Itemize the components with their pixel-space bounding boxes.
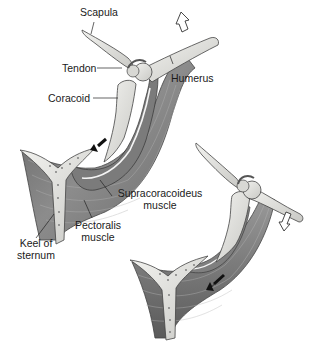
flight-muscle-diagram: Scapula Tendon Coracoid Humerus Supracor… xyxy=(0,0,315,350)
label-supracoracoideus-muscle: Supracoracoideus muscle xyxy=(112,187,208,211)
label-supracoracoideus-line2: muscle xyxy=(112,199,208,211)
label-pectoralis-muscle: Pectoralis muscle xyxy=(70,219,126,243)
wing-up-arrow xyxy=(176,12,189,32)
label-coracoid: Coracoid xyxy=(48,92,90,104)
label-scapula: Scapula xyxy=(80,6,118,18)
label-keel-of-sternum: Keel of sternum xyxy=(14,237,58,261)
label-keel-line1: Keel of xyxy=(14,237,58,249)
diagram-artwork xyxy=(0,0,315,350)
label-pectoralis-line2: muscle xyxy=(70,231,126,243)
label-humerus: Humerus xyxy=(171,72,214,84)
wing-down-arrow xyxy=(279,212,291,231)
label-supracoracoideus-line1: Supracoracoideus xyxy=(112,187,208,199)
downstroke-panel xyxy=(130,143,303,340)
label-tendon: Tendon xyxy=(62,62,96,74)
label-pectoralis-line1: Pectoralis xyxy=(70,219,126,231)
scapula-bone-bottom xyxy=(196,143,240,188)
label-keel-line2: sternum xyxy=(14,249,58,261)
